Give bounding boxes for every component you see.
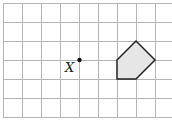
point-label: X	[64, 60, 75, 75]
grid-diagram: X	[0, 0, 172, 122]
pentagon-shape	[117, 41, 155, 79]
point-x	[77, 58, 81, 62]
